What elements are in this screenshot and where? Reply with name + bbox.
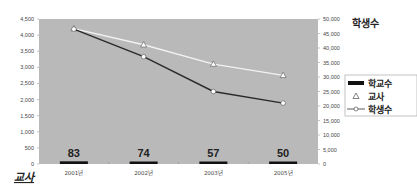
x-tick-label: 2003년 [204, 169, 223, 176]
left-axis-title: 교사 [14, 171, 36, 184]
bar [199, 162, 227, 165]
right-tick-label: 30,000 [323, 74, 340, 80]
bar [60, 161, 88, 164]
left-tick-label: 3,000 [20, 64, 34, 70]
x-tick-label: 2001년 [64, 169, 83, 176]
left-tick-label: 0 [31, 161, 34, 167]
x-tick-label: 2005년 [274, 169, 293, 176]
right-tick-label: 0 [323, 161, 326, 167]
left-tick-label: 4,000 [20, 32, 34, 38]
legend-bar-swatch-icon [348, 81, 364, 85]
circle-marker-icon [281, 101, 286, 106]
left-tick-label: 1,000 [20, 129, 34, 135]
right-tick-label: 40,000 [323, 45, 340, 51]
left-tick-label: 3,500 [20, 48, 34, 54]
legend-circle-icon [354, 107, 358, 111]
x-tick-label: 2002년 [134, 169, 153, 176]
right-tick-label: 20,000 [323, 103, 340, 109]
left-tick-label: 1,500 [20, 113, 34, 119]
combo-chart: 05001,0001,5002,0002,5003,0003,5004,0004… [0, 0, 417, 189]
circle-marker-icon [211, 89, 216, 94]
plot-area [39, 19, 318, 164]
legend-label: 학생수 [368, 104, 392, 115]
left-tick-label: 2,000 [20, 97, 34, 103]
right-tick-label: 10,000 [323, 132, 340, 138]
right-tick-label: 45,000 [323, 31, 340, 37]
left-tick-label: 500 [25, 145, 34, 151]
left-axis: 05001,0001,5002,0002,5003,0003,5004,0004… [20, 16, 39, 167]
right-tick-label: 35,000 [323, 60, 340, 66]
legend-label: 학교수 [368, 78, 392, 89]
bar-data-label: 57 [207, 147, 219, 159]
right-axis-title: 학생수 [352, 17, 379, 29]
right-tick-label: 5,000 [323, 147, 337, 153]
right-tick-label: 15,000 [323, 118, 340, 124]
right-tick-label: 25,000 [323, 89, 340, 95]
legend: 학교수교사학생수 [345, 75, 417, 116]
left-tick-label: 2,500 [20, 80, 34, 86]
left-tick-label: 4,500 [20, 16, 34, 22]
bar [269, 162, 297, 165]
bar-data-label: 74 [138, 147, 151, 159]
right-tick-label: 50,000 [323, 16, 340, 22]
bar-data-label: 83 [68, 147, 80, 159]
legend-label: 교사 [368, 91, 385, 102]
circle-marker-icon [72, 27, 77, 32]
bar [130, 162, 158, 165]
x-axis: 2001년2002년2003년2005년 [64, 169, 292, 176]
bar-data-label: 50 [277, 147, 289, 159]
circle-marker-icon [141, 54, 146, 59]
